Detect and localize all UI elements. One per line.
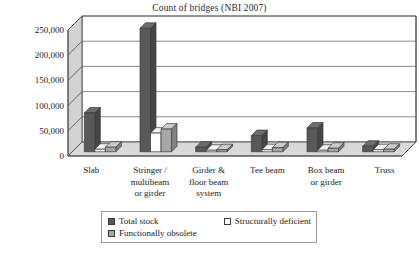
y-axis-tick-label: 150,000 xyxy=(12,75,64,85)
x-axis-category-label: Stringer /multibeamor girder xyxy=(121,165,180,200)
y-axis-tick-label: 0 xyxy=(12,151,64,161)
legend-row: Functionally obsolete xyxy=(108,227,311,239)
legend-row: Total stock Structurally deficient xyxy=(108,215,311,227)
x-axis-category-label: Tee beam xyxy=(238,165,297,200)
bar-front-face xyxy=(251,136,261,152)
legend-item-structurally-deficient: Structurally deficient xyxy=(224,215,311,227)
legend-swatch-icon xyxy=(224,218,231,225)
bar-front-face xyxy=(151,133,162,152)
bar-front-face xyxy=(384,149,395,152)
x-axis-category-labels: SlabStringer /multibeamor girderGirder &… xyxy=(62,165,414,200)
bar-front-face xyxy=(373,150,384,152)
legend-label: Total stock xyxy=(119,215,159,227)
chart-figure: Count of bridges (NBI 2007) 050,000100,0… xyxy=(0,0,419,260)
y-axis-tick-label: 100,000 xyxy=(12,101,64,111)
plot-back-wall xyxy=(82,16,416,142)
y-axis-tick-label: 200,000 xyxy=(12,50,64,60)
legend-item-functionally-obsolete: Functionally obsolete xyxy=(108,227,226,239)
legend-label: Functionally obsolete xyxy=(119,227,197,239)
legend-item-total-stock: Total stock xyxy=(108,215,224,227)
bar-front-face xyxy=(196,147,207,152)
legend-swatch-icon xyxy=(108,218,115,225)
x-axis-category-label: Slab xyxy=(62,165,121,200)
legend-label: Structurally deficient xyxy=(235,215,311,227)
y-axis-tick-label: 250,000 xyxy=(12,25,64,35)
y-axis-tick-label: 50,000 xyxy=(12,126,64,136)
bar-front-face xyxy=(84,113,95,152)
plot-left-wall xyxy=(68,16,82,156)
bar-front-face xyxy=(318,150,329,152)
bar-front-face xyxy=(363,146,374,152)
bar-front-face xyxy=(105,147,116,152)
bar-front-face xyxy=(272,148,283,152)
bar-front-face xyxy=(95,149,106,152)
bar-front-face xyxy=(328,148,339,152)
chart-legend: Total stock Structurally deficient Funct… xyxy=(101,211,317,243)
x-axis-category-label: Girder &floor beamsystem xyxy=(179,165,238,200)
bar-front-face xyxy=(140,28,151,151)
bar-front-face xyxy=(307,128,318,152)
bar-front-face xyxy=(217,150,228,152)
x-axis-category-label: Box beamor girder xyxy=(297,165,356,200)
bar-front-face xyxy=(262,150,273,152)
bar-front-face xyxy=(206,150,217,152)
bar-front-face xyxy=(161,129,172,152)
y-axis-tick-labels: 050,000100,000150,000200,000250,000 xyxy=(8,0,64,200)
bar-side-face xyxy=(172,124,178,152)
legend-swatch-icon xyxy=(108,230,115,237)
x-axis-category-label: Truss xyxy=(355,165,414,200)
